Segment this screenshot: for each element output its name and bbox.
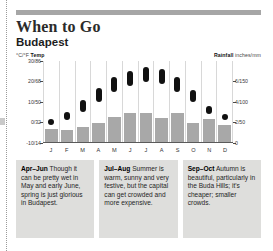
axis-baseline (43, 142, 233, 143)
rainfall-bar (124, 113, 137, 143)
month-column (122, 61, 138, 143)
temperature-range-marker (127, 71, 133, 85)
right-axis-unit: inches/mm (235, 52, 261, 58)
season-note: Jul–Aug Summer is warm, sunny and very f… (99, 160, 177, 238)
temperature-range-marker (190, 90, 196, 102)
month-label: F (59, 145, 75, 155)
left-tick-dash (40, 81, 43, 82)
season-note: Sep–Oct Autumn is beautiful, particularl… (183, 160, 261, 238)
page-title: When to Go (16, 18, 101, 36)
temperature-range-marker (143, 67, 149, 81)
climate-chart: °C/°F Temp Rainfall inches/mm 30/8620/68… (16, 52, 261, 152)
rainfall-bar (140, 113, 153, 143)
temperature-range-marker (222, 114, 228, 120)
temperature-range-marker (48, 119, 54, 125)
right-axis-heading: Rainfall inches/mm (214, 52, 261, 58)
month-column (43, 61, 59, 143)
temperature-range-marker (64, 112, 70, 120)
right-tick-label: 2/50 (235, 119, 245, 125)
month-column (90, 61, 106, 143)
month-column (201, 61, 217, 143)
temperature-range-marker (80, 100, 86, 112)
rainfall-bar (45, 129, 58, 143)
plot-area: 30/8620/6810/500/32-10/14 6/1504/1002/50… (43, 61, 233, 143)
month-label: A (90, 145, 106, 155)
month-column (138, 61, 154, 143)
temperature-range-marker (96, 88, 102, 102)
left-tick-dash (40, 102, 43, 103)
month-label: J (43, 145, 59, 155)
rainfall-bar (203, 119, 216, 143)
season-note-period: Jul–Aug (104, 165, 130, 172)
right-tick-label: 4/100 (235, 99, 248, 105)
month-label: A (154, 145, 170, 155)
month-label: J (122, 145, 138, 155)
month-column (106, 61, 122, 143)
month-column (153, 61, 169, 143)
left-tick-dash (40, 122, 43, 123)
month-axis-labels: JFMAMJJASOND (43, 145, 233, 155)
month-column (216, 61, 233, 143)
month-column (75, 61, 91, 143)
season-notes: Apr–Jun Though it can be pretty wet in M… (16, 160, 261, 238)
month-label: N (201, 145, 217, 155)
season-note-period: Sep–Oct (188, 165, 215, 172)
month-column (185, 61, 201, 143)
header-rule (16, 10, 261, 15)
left-tick-label: -10/14 (26, 140, 41, 146)
rainfall-bar (77, 127, 90, 143)
when-to-go-panel: When to Go Budapest °C/°F Temp Rainfall … (0, 0, 273, 251)
rainfall-bar (171, 113, 184, 143)
rainfall-bar (108, 117, 121, 143)
month-label: M (106, 145, 122, 155)
month-column (169, 61, 185, 143)
rainfall-bar (218, 125, 231, 143)
month-columns (43, 61, 233, 143)
right-axis-name: Rainfall (214, 52, 234, 58)
month-column (59, 61, 75, 143)
page-edge-marker (0, 118, 5, 125)
page-edge-rule (6, 0, 7, 251)
temperature-range-marker (159, 69, 165, 83)
month-label: D (217, 145, 233, 155)
month-label: O (185, 145, 201, 155)
temperature-range-marker (174, 77, 180, 91)
rainfall-bar (92, 123, 105, 144)
left-tick-dash (40, 61, 43, 62)
month-label: J (138, 145, 154, 155)
season-note-period: Apr–Jun (21, 165, 48, 172)
page-subtitle: Budapest (16, 36, 68, 49)
rainfall-bar (61, 130, 74, 143)
month-label: S (170, 145, 186, 155)
season-note: Apr–Jun Though it can be pretty wet in M… (16, 160, 94, 238)
temperature-range-marker (111, 77, 117, 91)
rainfall-bar (187, 123, 200, 144)
right-tick-label: 0 (235, 140, 238, 146)
rainfall-bar (155, 118, 168, 143)
month-label: M (75, 145, 91, 155)
temperature-range-marker (206, 106, 212, 114)
right-tick-label: 6/150 (235, 78, 248, 84)
